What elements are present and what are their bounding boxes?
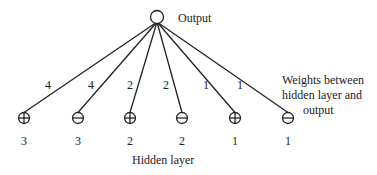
negative-node	[283, 113, 294, 124]
weights-annotation-line-3: output	[303, 103, 334, 117]
weights-annotation-line-1: Weights between	[282, 73, 364, 87]
node-values: 332211	[21, 134, 291, 148]
node-value: 1	[285, 134, 291, 148]
node-value: 3	[21, 134, 27, 148]
edge	[130, 22, 157, 113]
network-diagram: 442211 332211 Output Weights between hid…	[0, 0, 377, 175]
negative-node	[73, 113, 84, 124]
weight-label: 1	[237, 78, 243, 92]
weight-label: 2	[163, 78, 169, 92]
output-node	[151, 11, 164, 24]
weight-label: 4	[45, 78, 51, 92]
edges	[24, 22, 288, 113]
node-value: 2	[127, 134, 133, 148]
positive-node	[125, 113, 136, 124]
weights-annotation-line-2: hidden layer and	[282, 88, 362, 102]
weight-label: 4	[88, 78, 94, 92]
node-value: 3	[75, 134, 81, 148]
node-value: 2	[179, 134, 185, 148]
positive-node	[19, 113, 30, 124]
negative-node	[177, 113, 188, 124]
hidden-layer	[19, 113, 294, 124]
node-value: 1	[232, 134, 238, 148]
positive-node	[230, 113, 241, 124]
weight-label: 2	[127, 78, 133, 92]
hidden-layer-label: Hidden layer	[132, 153, 194, 167]
output-label: Output	[178, 11, 212, 25]
weight-label: 1	[203, 78, 209, 92]
weight-labels: 442211	[45, 78, 243, 92]
